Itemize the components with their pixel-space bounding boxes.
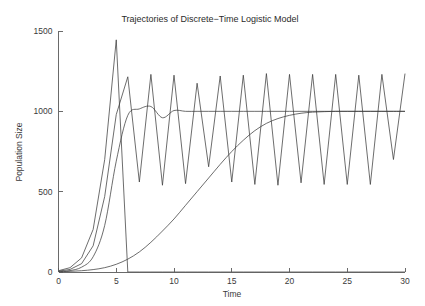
- x-tick-label: 25: [343, 276, 353, 286]
- plot-background: [0, 0, 425, 306]
- x-tick-label: 0: [56, 276, 61, 286]
- x-tick-label: 20: [285, 276, 295, 286]
- y-tick-label: 1500: [34, 26, 53, 36]
- x-axis-label: Time: [223, 289, 242, 299]
- y-tick-label: 1000: [34, 106, 53, 116]
- logistic-model-plot: Trajectories of Discrete−Time Logistic M…: [0, 0, 425, 306]
- x-tick-label: 10: [169, 276, 179, 286]
- y-tick-label: 0: [48, 267, 53, 277]
- y-tick-label: 500: [38, 187, 52, 197]
- chart-figure: Trajectories of Discrete−Time Logistic M…: [0, 0, 425, 306]
- y-axis-label: Population Size: [14, 122, 24, 181]
- x-tick-label: 15: [227, 276, 237, 286]
- x-tick-label: 5: [114, 276, 119, 286]
- chart-title: Trajectories of Discrete−Time Logistic M…: [121, 14, 298, 24]
- x-tick-label: 30: [400, 276, 410, 286]
